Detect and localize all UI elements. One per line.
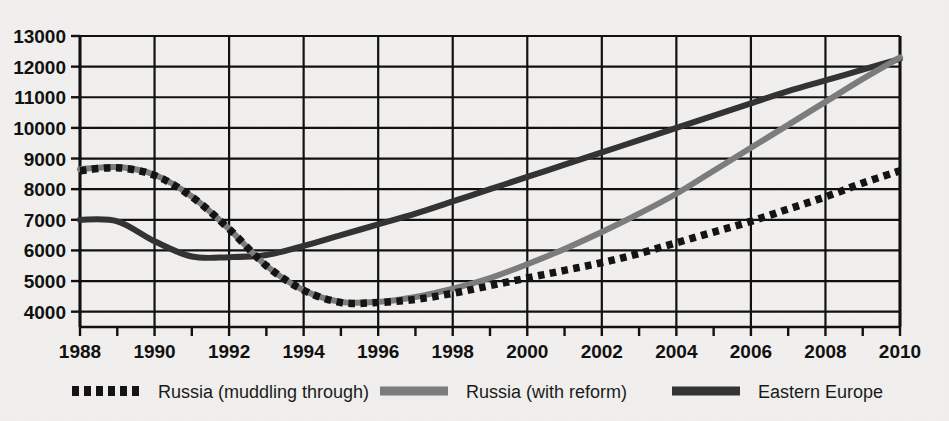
y-tick-label: 4000: [24, 302, 66, 323]
y-tick-label: 5000: [24, 271, 66, 292]
x-tick-label: 2002: [581, 341, 623, 362]
x-tick-label: 1996: [357, 341, 399, 362]
y-tick-label: 7000: [24, 210, 66, 231]
chart-container: 4000500060007000800090001000011000120001…: [0, 0, 949, 421]
y-tick-label: 13000: [13, 26, 66, 47]
legend-label: Russia (muddling through): [158, 382, 369, 402]
y-tick-label: 10000: [13, 118, 66, 139]
x-tick-label: 1992: [208, 341, 250, 362]
legend-label: Russia (with reform): [466, 382, 627, 402]
x-tick-label: 2006: [730, 341, 772, 362]
y-tick-label: 6000: [24, 240, 66, 261]
axis-ticks: [71, 36, 900, 336]
x-axis-labels: 1988199019921994199619982000200220042006…: [59, 341, 921, 362]
x-tick-label: 2004: [655, 341, 698, 362]
line-chart: 4000500060007000800090001000011000120001…: [0, 0, 949, 421]
y-tick-label: 11000: [14, 87, 66, 108]
legend-item: Russia (muddling through): [72, 382, 369, 402]
x-tick-label: 2008: [804, 341, 846, 362]
x-tick-label: 2010: [879, 341, 921, 362]
legend-item: Russia (with reform): [380, 382, 627, 402]
y-axis-labels: 4000500060007000800090001000011000120001…: [13, 26, 66, 323]
y-tick-label: 12000: [13, 57, 66, 78]
x-tick-label: 1990: [133, 341, 175, 362]
grid-lines: [80, 36, 900, 327]
x-tick-label: 1998: [432, 341, 474, 362]
legend-item: Eastern Europe: [672, 382, 883, 402]
x-tick-label: 2000: [506, 341, 548, 362]
x-tick-label: 1988: [59, 341, 101, 362]
y-tick-label: 9000: [24, 149, 66, 170]
y-tick-label: 8000: [24, 179, 66, 200]
chart-legend: Russia (muddling through)Russia (with re…: [72, 382, 883, 402]
data-series-layer: [80, 57, 900, 303]
legend-label: Eastern Europe: [758, 382, 883, 402]
x-tick-label: 1994: [282, 341, 325, 362]
